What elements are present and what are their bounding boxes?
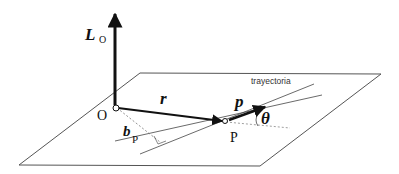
angular-momentum-diagram: L O O r p P b P θ trayectoria xyxy=(0,0,399,174)
label-momentum: p xyxy=(233,92,244,111)
label-origin: O xyxy=(97,108,107,123)
label-angular-momentum: L xyxy=(84,25,95,44)
label-angular-momentum-sub: O xyxy=(99,34,106,45)
reference-line xyxy=(226,122,290,128)
right-angle-marker xyxy=(154,136,166,144)
label-impact-parameter-sub: P xyxy=(132,133,138,145)
label-impact-parameter: b xyxy=(123,123,131,139)
trajectory-line-tangent xyxy=(115,95,322,141)
position-vector xyxy=(118,108,222,121)
particle-point xyxy=(223,119,228,124)
angle-arc xyxy=(256,114,258,126)
label-trajectory: trayectoria xyxy=(251,76,291,86)
label-angle: θ xyxy=(261,109,270,128)
label-point: P xyxy=(230,130,238,145)
origin-point xyxy=(113,105,119,111)
plane xyxy=(19,73,381,166)
label-position-vector: r xyxy=(160,89,167,108)
